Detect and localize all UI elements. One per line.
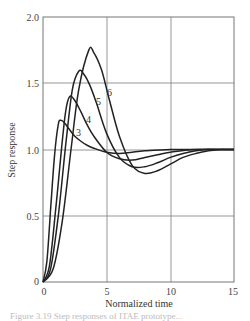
curve-label-5: 5 [96, 96, 101, 107]
x-ticks: 0 5 10 15 [42, 286, 239, 297]
y-tick-0.5: 0.5 [27, 211, 40, 222]
curve-6 [43, 47, 234, 282]
x-tick-5: 5 [105, 286, 110, 297]
y-tick-1.5: 1.5 [27, 78, 40, 89]
curves [43, 47, 234, 282]
x-tick-15: 15 [228, 286, 238, 297]
y-tick-1.0: 1.0 [27, 145, 40, 156]
curve-4 [43, 96, 234, 282]
y-tick-0: 0 [34, 276, 39, 287]
y-axis-label: Step response [6, 122, 17, 178]
y-tick-2.0: 2.0 [27, 12, 40, 23]
y-ticks: 2.0 1.5 1.0 0.5 0 [27, 12, 40, 287]
x-tick-0: 0 [42, 286, 47, 297]
curve-5 [43, 70, 234, 282]
curve-label-3: 3 [76, 127, 81, 138]
curve-label-4: 4 [86, 114, 91, 125]
curve-label-6: 6 [107, 87, 112, 98]
x-axis-label: Normalized time [105, 298, 173, 309]
figure-caption: Figure 3.19 Step responses of ITAE proto… [10, 311, 182, 321]
x-tick-10: 10 [166, 286, 176, 297]
